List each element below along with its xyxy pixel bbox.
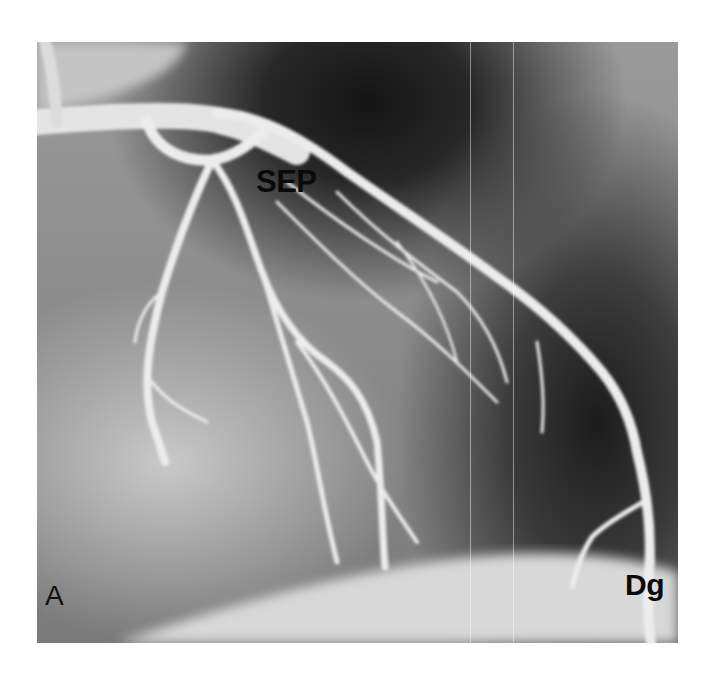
label-dg: Dg bbox=[625, 570, 664, 600]
vessel-overlay bbox=[37, 42, 678, 643]
label-sep: SEP bbox=[256, 166, 317, 197]
scan-artifact-line bbox=[470, 42, 471, 643]
angiogram-image: SEP Dg A bbox=[37, 42, 678, 643]
panel-letter: A bbox=[45, 580, 64, 612]
scan-artifact-line bbox=[513, 42, 514, 643]
